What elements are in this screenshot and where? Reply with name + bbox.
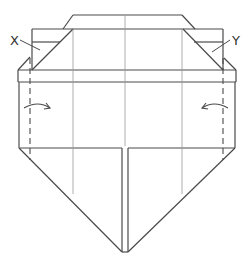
left-flap-x bbox=[18, 29, 73, 70]
fold-left-arrow bbox=[202, 103, 228, 109]
main-body bbox=[19, 82, 235, 148]
bottom-point bbox=[19, 148, 235, 252]
upper-band bbox=[32, 29, 223, 70]
right-flap-y bbox=[183, 29, 236, 70]
fold-right-arrow bbox=[24, 103, 50, 109]
svg-text:X: X bbox=[10, 33, 19, 48]
top-back-flap bbox=[63, 15, 195, 29]
origami-diagram: X Y bbox=[0, 0, 250, 268]
wide-band bbox=[18, 70, 236, 82]
svg-text:Y: Y bbox=[231, 33, 240, 48]
